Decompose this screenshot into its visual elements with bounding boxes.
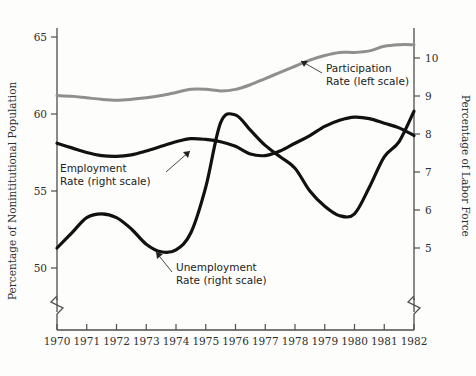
- left-axis-ticks: [51, 37, 57, 268]
- x-tick-label-1981: 1981: [371, 335, 398, 347]
- unemployment-rate-label-line2: Rate (right scale): [176, 274, 267, 286]
- right-tick-label-10: 10: [425, 52, 438, 64]
- right-axis-title: Percentage of Labor Force: [460, 95, 472, 237]
- left-tick-label-50: 50: [34, 262, 47, 274]
- right-tick-label-6: 6: [425, 204, 432, 216]
- right-tick-label-9: 9: [425, 90, 432, 102]
- x-tick-label-1974: 1974: [163, 335, 190, 347]
- participation-rate-label-line1: Participation: [326, 62, 392, 74]
- x-tick-label-1977: 1977: [252, 335, 279, 347]
- x-axis-tick-labels: 1970197119721973197419751976197719781979…: [44, 335, 428, 347]
- x-tick-label-1970: 1970: [44, 335, 71, 347]
- employment-rate-label-line1: Employment: [60, 162, 127, 174]
- right-tick-label-8: 8: [425, 128, 432, 140]
- chart-container: 65 60 55 50 Percentage of Nonintitutiona…: [0, 0, 476, 376]
- x-tick-label-1976: 1976: [222, 335, 249, 347]
- unemployment-rate-label-line1: Unemployment: [176, 261, 257, 273]
- left-tick-label-55: 55: [34, 185, 47, 197]
- employment-arrow-icon: [183, 151, 190, 158]
- employment-rate-label-line2: Rate (right scale): [60, 175, 151, 187]
- x-axis: 1970197119721973197419751976197719781979…: [44, 324, 428, 347]
- right-tick-label-7: 7: [425, 166, 432, 178]
- left-axis: 65 60 55 50 Percentage of Nonintitutiona…: [6, 28, 63, 330]
- employment-rate-line: [57, 117, 414, 156]
- right-axis-ticks: [414, 58, 420, 248]
- right-tick-label-5: 5: [425, 242, 432, 254]
- x-tick-label-1972: 1972: [103, 335, 130, 347]
- x-tick-label-1973: 1973: [133, 335, 160, 347]
- x-tick-label-1979: 1979: [311, 335, 338, 347]
- left-tick-label-65: 65: [34, 31, 47, 43]
- x-tick-label-1982: 1982: [401, 335, 428, 347]
- x-tick-label-1980: 1980: [341, 335, 368, 347]
- x-tick-label-1971: 1971: [73, 335, 100, 347]
- left-tick-label-60: 60: [34, 108, 47, 120]
- participation-rate-label-line2: Rate (left scale): [326, 75, 409, 87]
- x-axis-ticks: [57, 324, 414, 330]
- x-tick-label-1978: 1978: [282, 335, 309, 347]
- left-axis-title: Percentage of Nonintitutional Population: [6, 81, 18, 300]
- annotation-unemployment-rate: Unemployment Rate (right scale): [156, 252, 267, 286]
- x-tick-label-1975: 1975: [192, 335, 219, 347]
- line-chart: 65 60 55 50 Percentage of Nonintitutiona…: [0, 0, 476, 376]
- annotation-participation-rate: Participation Rate (left scale): [301, 61, 409, 87]
- right-axis: 10 9 8 7 6 5 Percentage of Labor Force: [408, 28, 472, 330]
